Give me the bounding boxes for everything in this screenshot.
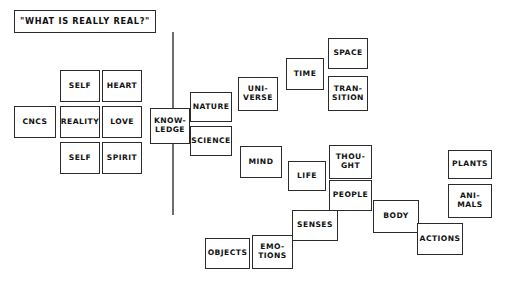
node-actions[interactable]: ACTIONS: [417, 223, 463, 255]
node-love[interactable]: LOVE: [102, 106, 142, 138]
node-mind[interactable]: MIND: [240, 146, 282, 178]
node-objects[interactable]: OBJECTS: [205, 238, 250, 269]
node-self-top[interactable]: SELF: [60, 70, 100, 102]
node-cncs[interactable]: CNCS: [14, 106, 56, 138]
node-nature[interactable]: NATURE: [190, 92, 232, 122]
node-emotions[interactable]: EMO- TIONS: [252, 235, 293, 269]
node-senses[interactable]: SENSES: [292, 210, 338, 241]
node-thought[interactable]: THOU- GHT: [329, 145, 372, 179]
node-transition[interactable]: TRAN- SITION: [328, 76, 368, 111]
node-time[interactable]: TIME: [286, 58, 324, 90]
concept-map-canvas: "WHAT IS REALLY REAL?" CNCSSELFHEARTREAL…: [0, 0, 518, 284]
node-space[interactable]: SPACE: [328, 38, 368, 69]
node-science[interactable]: SCIENCE: [190, 126, 232, 156]
node-knowledge[interactable]: KNOW- LEDGE: [150, 108, 190, 144]
node-people[interactable]: PEOPLE: [329, 180, 372, 211]
node-animals[interactable]: ANI- MALS: [448, 184, 492, 218]
node-universe[interactable]: UNI- VERSE: [238, 77, 278, 111]
node-heart[interactable]: HEART: [102, 70, 142, 102]
diagram-title-box: "WHAT IS REALLY REAL?": [14, 10, 156, 33]
node-self-bot[interactable]: SELF: [60, 142, 100, 174]
node-spirit[interactable]: SPIRIT: [102, 142, 142, 174]
node-plants[interactable]: PLANTS: [448, 150, 492, 179]
node-life[interactable]: LIFE: [288, 161, 326, 191]
node-reality[interactable]: REALITY: [60, 106, 100, 138]
node-body[interactable]: BODY: [373, 200, 419, 233]
